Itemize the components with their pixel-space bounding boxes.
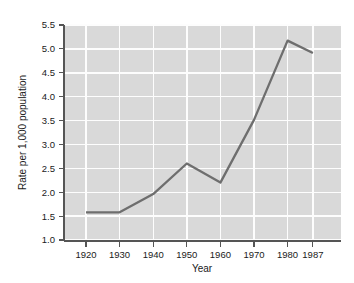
y-tick-label-5.5: 5.5 [42, 19, 55, 30]
line-chart: 1.0 1.5 2.0 2.5 3.0 3.5 4.0 4.5 5.0 5.5 … [0, 0, 354, 283]
x-tick-label-1987: 1987 [302, 249, 323, 260]
y-tick-label-2.0: 2.0 [42, 187, 55, 198]
y-axis-tick-labels: 1.0 1.5 2.0 2.5 3.0 3.5 4.0 4.5 5.0 5.5 [42, 19, 55, 245]
x-axis-title: Year [192, 263, 213, 274]
y-tick-label-3.5: 3.5 [42, 115, 55, 126]
y-axis-title: Rate per 1,000 population [17, 75, 28, 190]
y-tick-label-1.5: 1.5 [42, 211, 55, 222]
x-tick-label-1980: 1980 [277, 249, 298, 260]
y-tick-label-2.5: 2.5 [42, 163, 55, 174]
y-tick-label-1.0: 1.0 [42, 234, 55, 245]
x-tick-label-1930: 1930 [109, 249, 130, 260]
y-tick-label-4.5: 4.5 [42, 67, 55, 78]
x-tick-label-1940: 1940 [143, 249, 164, 260]
chart-figure: 1.0 1.5 2.0 2.5 3.0 3.5 4.0 4.5 5.0 5.5 … [0, 0, 354, 283]
x-tick-label-1960: 1960 [210, 249, 231, 260]
x-axis-tick-labels: 1920 1930 1940 1950 1960 1970 1980 1987 [75, 249, 323, 260]
plot-area-background [64, 25, 341, 241]
x-tick-label-1950: 1950 [176, 249, 197, 260]
y-tick-label-4.0: 4.0 [42, 91, 55, 102]
y-tick-label-3.0: 3.0 [42, 139, 55, 150]
x-axis-tick-marks [86, 241, 313, 247]
y-axis-tick-marks [59, 25, 65, 240]
y-tick-label-5.0: 5.0 [42, 43, 55, 54]
x-tick-label-1920: 1920 [75, 249, 96, 260]
x-tick-label-1970: 1970 [243, 249, 264, 260]
